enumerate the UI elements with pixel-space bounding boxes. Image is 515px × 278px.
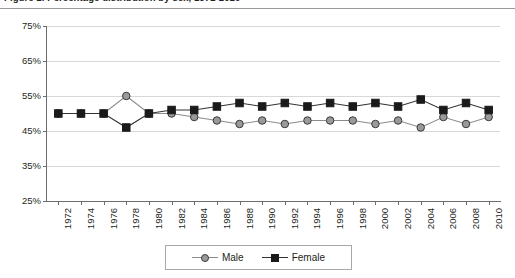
data-point-marker xyxy=(258,117,266,125)
legend-label-male: Male xyxy=(222,252,244,263)
y-tick-label: 55% xyxy=(7,90,41,101)
data-point-marker xyxy=(326,117,334,125)
data-point-marker xyxy=(485,106,493,114)
x-tick-label: 2000 xyxy=(379,208,390,229)
x-tick-label: 1978 xyxy=(130,208,141,229)
chart-legend: Male Female xyxy=(165,245,352,270)
data-point-marker xyxy=(100,110,108,118)
x-tick-label: 2002 xyxy=(402,208,413,229)
data-point-marker xyxy=(190,106,198,114)
x-tick-label: 1996 xyxy=(334,208,345,229)
data-point-marker xyxy=(213,117,221,125)
data-point-marker xyxy=(304,117,312,125)
series-layer xyxy=(47,26,500,202)
data-point-marker xyxy=(145,110,153,118)
data-point-marker xyxy=(123,124,130,132)
legend-label-female: Female xyxy=(292,252,325,263)
x-tick-label: 1982 xyxy=(176,208,187,229)
data-point-marker xyxy=(372,99,380,107)
series-male xyxy=(55,92,493,131)
data-point-marker xyxy=(304,103,312,111)
data-point-marker xyxy=(485,113,493,121)
x-tick-label: 2006 xyxy=(447,208,458,229)
data-point-marker xyxy=(349,117,357,125)
y-tick-label: 65% xyxy=(7,55,41,66)
legend-swatch-male xyxy=(192,252,218,264)
x-tick-label: 1986 xyxy=(221,208,232,229)
y-tick-label: 75% xyxy=(7,20,41,31)
data-point-marker xyxy=(372,120,380,128)
data-point-marker xyxy=(326,99,334,107)
data-point-marker xyxy=(281,99,289,107)
data-point-marker xyxy=(258,103,266,111)
data-point-marker xyxy=(394,103,402,111)
data-point-marker xyxy=(462,120,470,128)
plot-area: 25%35%45%55%65%75% 197219741976197819801… xyxy=(47,26,500,201)
data-point-marker xyxy=(236,120,244,128)
x-tick-label: 2008 xyxy=(470,208,481,229)
x-tick-label: 1998 xyxy=(357,208,368,229)
x-tick-label: 1980 xyxy=(153,208,164,229)
data-point-marker xyxy=(417,124,425,132)
data-point-marker xyxy=(440,113,448,121)
x-tick-label: 1990 xyxy=(266,208,277,229)
data-point-marker xyxy=(213,103,221,111)
x-tick-label: 1974 xyxy=(85,208,96,229)
y-tick-label: 35% xyxy=(7,160,41,171)
x-tick-label: 1984 xyxy=(198,208,209,229)
data-point-marker xyxy=(236,99,244,107)
y-tick-label: 45% xyxy=(7,125,41,136)
legend-swatch-female xyxy=(262,252,288,264)
legend-entry-female: Female xyxy=(262,252,325,264)
data-point-marker xyxy=(440,106,448,114)
x-tick-label: 2010 xyxy=(493,208,504,229)
square-marker-icon xyxy=(271,254,279,262)
x-tick-label: 1994 xyxy=(311,208,322,229)
data-point-marker xyxy=(462,99,470,107)
chart-figure: Figure 1. Percentage distribution by sex… xyxy=(0,0,515,278)
data-point-marker xyxy=(123,92,130,100)
data-point-marker xyxy=(417,96,425,104)
page-title: Figure 1. Percentage distribution by sex… xyxy=(4,0,240,3)
circle-marker-icon xyxy=(201,254,209,262)
legend-entry-male: Male xyxy=(192,252,244,264)
data-point-marker xyxy=(281,120,289,128)
x-tick-label: 2004 xyxy=(425,208,436,229)
y-tick-label: 25% xyxy=(7,195,41,206)
data-point-marker xyxy=(168,106,176,114)
data-point-marker xyxy=(349,103,357,111)
title-divider xyxy=(0,8,515,9)
data-point-marker xyxy=(77,110,85,118)
data-point-marker xyxy=(190,113,198,121)
data-point-marker xyxy=(394,117,402,125)
x-tick-label: 1988 xyxy=(244,208,255,229)
x-tick-label: 1992 xyxy=(289,208,300,229)
data-point-marker xyxy=(55,110,63,118)
x-tick-label: 1976 xyxy=(108,208,119,229)
x-tick-label: 1972 xyxy=(62,208,73,229)
